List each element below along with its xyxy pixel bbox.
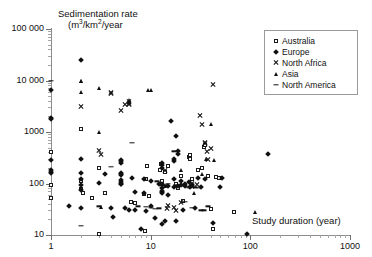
data-point-north-america — [201, 210, 206, 211]
y-tick-minor — [48, 49, 51, 50]
data-point-europe — [173, 218, 179, 224]
data-point-europe — [48, 87, 54, 93]
x-tick-minor — [146, 235, 147, 238]
data-point-europe — [152, 216, 158, 222]
y-tick-minor — [48, 34, 51, 35]
x-tick-minor — [220, 235, 221, 238]
x-tick-minor — [241, 235, 242, 238]
data-point-australia — [49, 183, 53, 187]
legend-marker-glyph — [274, 39, 278, 43]
data-point-europe — [202, 177, 208, 183]
data-point-north-america — [178, 185, 183, 186]
data-point-australia — [49, 150, 53, 154]
legend-item-north-america[interactable]: North America — [270, 79, 353, 90]
data-point-north-america — [190, 207, 195, 208]
data-point-north-america — [196, 187, 201, 188]
x-tick-minor — [141, 235, 142, 238]
y-tick-minor — [48, 56, 51, 57]
data-point-europe — [66, 203, 72, 209]
data-point-europe — [210, 220, 216, 226]
data-point-europe — [219, 175, 225, 181]
data-point-europe — [176, 151, 182, 157]
y-tick-minor — [48, 107, 51, 108]
data-point-europe — [126, 207, 132, 213]
y-axis-unit-mid: /km — [83, 19, 98, 30]
y-tick-minor — [48, 137, 51, 138]
data-point-europe — [118, 182, 124, 188]
y-tick-minor — [48, 219, 51, 220]
x-tick-label: 10 — [146, 241, 156, 251]
data-point-australia — [145, 164, 149, 168]
data-point-north-america — [186, 187, 191, 188]
data-point-north-africa — [162, 168, 168, 174]
data-point-europe — [129, 175, 135, 181]
y-tick-label: 10 — [34, 229, 44, 239]
data-point-asia — [179, 168, 183, 172]
data-point-europe — [165, 192, 171, 198]
y-tick-minor — [48, 143, 51, 144]
y-tick-minor — [48, 37, 51, 38]
y-tick-label: 100 — [29, 178, 44, 188]
data-point-europe — [168, 118, 174, 124]
data-point-north-africa — [118, 108, 124, 114]
legend-marker-glyph — [274, 72, 278, 76]
legend-item-north-africa[interactable]: North Africa — [270, 57, 353, 68]
data-point-europe — [132, 190, 138, 196]
data-point-asia — [97, 130, 101, 134]
data-point-asia — [127, 100, 131, 104]
x-tick-minor — [129, 235, 130, 238]
data-point-asia — [212, 158, 216, 162]
data-point-europe — [148, 178, 154, 184]
data-point-north-america — [166, 183, 171, 184]
data-point-north-africa — [108, 91, 114, 97]
data-point-asia — [97, 86, 101, 90]
legend-item-label: Europe — [281, 47, 309, 57]
y-tick-minor — [48, 45, 51, 46]
data-point-europe — [265, 151, 271, 157]
x-tick-minor — [228, 235, 229, 238]
y-tick-minor — [48, 101, 51, 102]
x-tick-major — [51, 235, 52, 240]
data-point-north-africa — [208, 145, 214, 151]
y-tick-minor — [48, 204, 51, 205]
data-point-asia — [200, 172, 204, 176]
legend-item-label: North America — [281, 80, 336, 90]
data-point-europe — [96, 180, 102, 186]
legend-item-asia[interactable]: Asia — [270, 68, 353, 79]
y-tick-minor — [48, 148, 51, 149]
data-point-australia — [143, 229, 147, 233]
legend-item-europe[interactable]: Europe — [270, 46, 353, 57]
data-point-north-america — [206, 206, 211, 207]
y-tick-minor — [48, 134, 51, 135]
data-point-north-africa — [199, 121, 205, 127]
y-tick-label: 1000 — [24, 126, 44, 136]
y-axis-unit-prefix: (m — [68, 19, 79, 30]
legend-marker-glyph — [273, 49, 279, 55]
x-tick-minor — [298, 235, 299, 238]
data-point-australia — [49, 196, 53, 200]
data-point-europe — [162, 218, 168, 224]
x-tick-minor — [235, 235, 236, 238]
legend-marker-dash-icon — [270, 79, 281, 90]
data-point-north-america — [163, 184, 168, 185]
x-tick-minor — [280, 235, 281, 238]
data-point-europe — [171, 158, 177, 164]
legend-marker-open-square-icon — [270, 35, 281, 46]
y-tick-minor — [48, 31, 51, 32]
data-point-europe — [132, 208, 138, 214]
data-point-australia — [209, 207, 213, 211]
scatter-chart-figure: Sedimentation rate (m3/km2/year Study du… — [0, 0, 372, 257]
x-axis-title: Study duration (year) — [252, 215, 341, 226]
y-tick-label: 100 000 — [11, 23, 44, 33]
x-tick-major — [250, 235, 251, 240]
data-point-north-america — [130, 142, 135, 143]
x-tick-label: 100 — [243, 241, 258, 251]
legend-item-label: Asia — [281, 69, 299, 79]
y-tick-minor — [48, 83, 51, 84]
data-point-australia — [79, 127, 83, 131]
x-tick-minor — [198, 235, 199, 238]
legend-item-australia[interactable]: Australia — [270, 35, 353, 46]
y-tick-minor — [48, 210, 51, 211]
data-point-north-africa — [98, 151, 104, 157]
data-point-asia — [253, 210, 257, 214]
